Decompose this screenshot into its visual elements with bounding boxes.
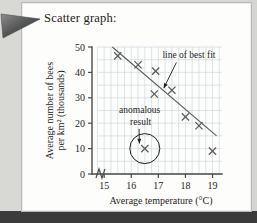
x-tick-label: 16: [126, 180, 136, 191]
x-tick-label: 15: [99, 180, 109, 191]
page-bottom-edge: [0, 211, 257, 223]
anomalous-result-label-line2: result: [130, 117, 151, 127]
y-axis-title: per km² (thousands): [55, 70, 67, 150]
anomalous-result-label-line1: anomalous: [119, 105, 160, 115]
x-tick-label: 19: [208, 180, 218, 191]
line-of-best-fit-label: line of best fit: [162, 50, 215, 60]
y-tick-label: 50: [75, 42, 85, 53]
y-tick-label: 0: [80, 169, 85, 180]
x-axis-title: Average temperature (°C): [109, 195, 212, 207]
chart-annotations: line of best fitanomalousresult: [119, 50, 216, 163]
y-tick-label: 30: [75, 92, 85, 103]
y-tick-label: 10: [75, 143, 85, 154]
y-axis-title: Average number of bees: [44, 62, 55, 159]
x-tick-label: 17: [153, 180, 163, 191]
y-tick-label: 40: [75, 67, 85, 78]
x-tick-label: 18: [180, 180, 190, 191]
scatter-chart: 151617181901020304050 line of best fitan…: [21, 2, 250, 210]
y-tick-label: 20: [75, 118, 85, 129]
